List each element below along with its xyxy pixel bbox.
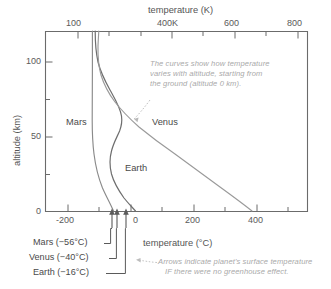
bottom-tick-label-0: 0 — [133, 216, 138, 225]
curve-label-venus: Venus — [152, 118, 178, 127]
top-tick-label-800: 800 — [287, 19, 302, 28]
y-tick-label-100: 100 — [26, 57, 41, 66]
y-tick-label-50: 50 — [31, 132, 41, 141]
curves-note-leader — [134, 100, 150, 122]
y-axis-title: altitude (km) — [13, 115, 22, 166]
bottom-tick-label-minus200: -200 — [56, 216, 74, 225]
arrow-label-venus: Venus (−40°C) — [29, 253, 89, 262]
arrows-note-line-1: Arrows indicate planet's surface tempera… — [158, 257, 312, 267]
curve-label-earth: Earth — [125, 164, 147, 173]
arrow-label-earth: Earth (−16°C) — [33, 268, 89, 277]
top-tick-label-600: 600 — [224, 19, 239, 28]
top-tick-label-400k: 400K — [157, 19, 178, 28]
curve-mars — [92, 31, 113, 211]
bottom-tick-label-400: 400 — [248, 216, 263, 225]
y-axis-ticks — [46, 62, 53, 175]
top-axis-ticks — [78, 32, 298, 39]
arrows-note: Arrows indicate planet's surface tempera… — [158, 257, 312, 277]
y-tick-label-0: 0 — [36, 207, 41, 216]
bottom-axis-ticks — [68, 205, 288, 212]
curves-note-line-1: The curves show how temperature — [150, 59, 270, 69]
bottom-axis-title: temperature (°C) — [143, 239, 212, 248]
arrow-label-leaders — [104, 229, 126, 274]
curves-note-line-3: the ground (altitude 0 km). — [150, 79, 270, 89]
curves-note: The curves show how temperature varies w… — [150, 59, 270, 89]
top-axis-title: temperature (K) — [148, 6, 213, 15]
top-tick-label-100: 100 — [66, 19, 81, 28]
arrows-note-line-2: IF there were no greenhouse effect. — [158, 267, 312, 277]
bottom-tick-label-200: 200 — [185, 216, 200, 225]
curves-note-line-2: varies with altitude, starting from — [150, 69, 270, 79]
arrows-note-leader — [136, 258, 157, 263]
curve-label-mars: Mars — [66, 118, 87, 127]
arrow-label-mars: Mars (−56°C) — [33, 238, 87, 247]
